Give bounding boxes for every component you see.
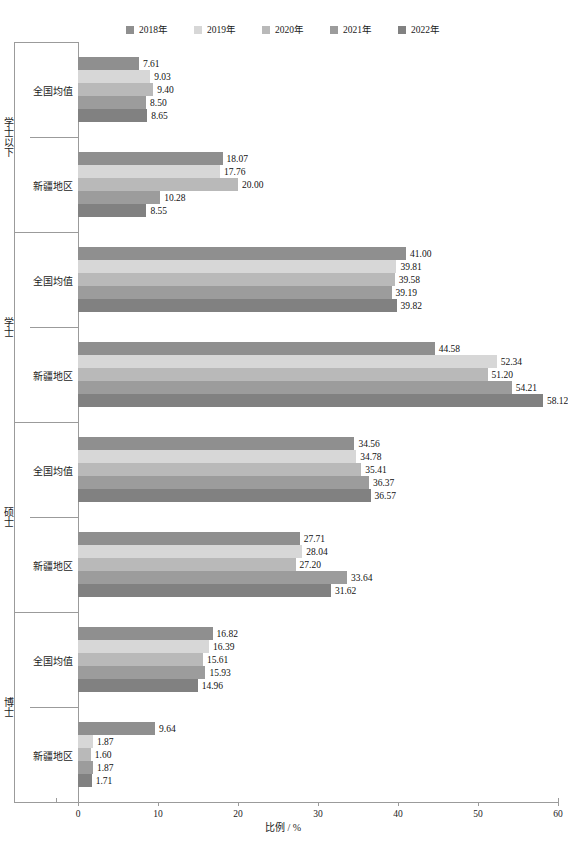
category-label-新疆地区: 新疆地区 bbox=[33, 557, 73, 572]
x-axis-tick bbox=[238, 802, 239, 806]
subgroup-separator bbox=[30, 707, 78, 708]
bar-row: 9.40 bbox=[78, 83, 558, 96]
bar-2022年[interactable] bbox=[78, 774, 92, 787]
bar-2019年[interactable] bbox=[78, 165, 220, 178]
bar-2021年[interactable] bbox=[78, 381, 512, 394]
x-axis-tick bbox=[78, 802, 79, 806]
bar-2019年[interactable] bbox=[78, 355, 497, 368]
bar-value-label: 1.71 bbox=[92, 776, 113, 786]
bar-row: 33.64 bbox=[78, 571, 558, 584]
bar-2020年[interactable] bbox=[78, 178, 238, 191]
legend-item-2019年[interactable]: 2019年 bbox=[194, 25, 236, 35]
bar-2018年[interactable] bbox=[78, 627, 213, 640]
bar-row: 16.39 bbox=[78, 640, 558, 653]
category-label-全国均值: 全国均值 bbox=[33, 462, 73, 477]
bar-row: 28.04 bbox=[78, 545, 558, 558]
bar-value-label: 20.00 bbox=[238, 180, 263, 190]
legend-swatch-icon bbox=[194, 26, 202, 34]
bar-value-label: 28.04 bbox=[302, 547, 327, 557]
bar-value-label: 9.03 bbox=[150, 72, 171, 82]
bar-2021年[interactable] bbox=[78, 286, 392, 299]
bar-2021年[interactable] bbox=[78, 96, 146, 109]
category-label-全国均值: 全国均值 bbox=[33, 652, 73, 667]
bar-2019年[interactable] bbox=[78, 640, 209, 653]
legend-item-2021年[interactable]: 2021年 bbox=[330, 25, 372, 35]
bar-2018年[interactable] bbox=[78, 342, 435, 355]
bar-2018年[interactable] bbox=[78, 152, 223, 165]
bar-2018年[interactable] bbox=[78, 57, 139, 70]
bar-2021年[interactable] bbox=[78, 191, 160, 204]
bar-row: 34.56 bbox=[78, 437, 558, 450]
bar-2021年[interactable] bbox=[78, 666, 205, 679]
legend-label: 2018年 bbox=[139, 25, 168, 35]
bar-value-label: 41.00 bbox=[406, 249, 431, 259]
category-label-新疆地区: 新疆地区 bbox=[33, 177, 73, 192]
bar-value-label: 9.64 bbox=[155, 724, 176, 734]
bar-2020年[interactable] bbox=[78, 558, 296, 571]
category-label-新疆地区: 新疆地区 bbox=[33, 747, 73, 762]
bar-row: 15.61 bbox=[78, 653, 558, 666]
bar-row: 27.71 bbox=[78, 532, 558, 545]
bar-2020年[interactable] bbox=[78, 83, 153, 96]
bar-2022年[interactable] bbox=[78, 584, 331, 597]
bar-row: 7.61 bbox=[78, 57, 558, 70]
bar-2022年[interactable] bbox=[78, 204, 146, 217]
x-axis-tick-label: 40 bbox=[393, 809, 403, 820]
bar-2019年[interactable] bbox=[78, 545, 302, 558]
legend-item-2020年[interactable]: 2020年 bbox=[262, 25, 304, 35]
bar-value-label: 39.81 bbox=[396, 262, 421, 272]
top-margin bbox=[0, 0, 566, 10]
bar-value-label: 14.96 bbox=[198, 681, 223, 691]
x-axis-tick-label: 10 bbox=[153, 809, 163, 820]
bar-value-label: 1.60 bbox=[91, 750, 112, 760]
bar-2019年[interactable] bbox=[78, 70, 150, 83]
bar-value-label: 34.56 bbox=[354, 439, 379, 449]
bar-row: 36.57 bbox=[78, 489, 558, 502]
bar-2022年[interactable] bbox=[78, 299, 397, 312]
bar-2020年[interactable] bbox=[78, 463, 361, 476]
bar-2021年[interactable] bbox=[78, 761, 93, 774]
bar-2019年[interactable] bbox=[78, 260, 396, 273]
bar-2022年[interactable] bbox=[78, 489, 371, 502]
bar-row: 1.87 bbox=[78, 735, 558, 748]
bar-2019年[interactable] bbox=[78, 735, 93, 748]
bar-value-label: 9.40 bbox=[153, 85, 174, 95]
bar-row: 9.64 bbox=[78, 722, 558, 735]
bar-2022年[interactable] bbox=[78, 679, 198, 692]
bar-2020年[interactable] bbox=[78, 368, 488, 381]
bar-row: 39.58 bbox=[78, 273, 558, 286]
bar-2022年[interactable] bbox=[78, 394, 543, 407]
bar-2020年[interactable] bbox=[78, 273, 395, 286]
subgroup-separator bbox=[30, 327, 78, 328]
bar-row: 18.07 bbox=[78, 152, 558, 165]
bar-value-label: 39.19 bbox=[392, 288, 417, 298]
legend-swatch-icon bbox=[398, 26, 406, 34]
bar-2018年[interactable] bbox=[78, 722, 155, 735]
bar-2022年[interactable] bbox=[78, 109, 147, 122]
bar-2021年[interactable] bbox=[78, 476, 369, 489]
bar-value-label: 16.82 bbox=[213, 629, 238, 639]
bar-2018年[interactable] bbox=[78, 532, 300, 545]
bar-row: 16.82 bbox=[78, 627, 558, 640]
plot-area: 7.619.039.408.508.6518.0717.7620.0010.28… bbox=[78, 42, 558, 802]
bar-2019年[interactable] bbox=[78, 450, 356, 463]
bar-value-label: 36.57 bbox=[371, 491, 396, 501]
bar-2020年[interactable] bbox=[78, 748, 91, 761]
bar-row: 1.60 bbox=[78, 748, 558, 761]
bar-row: 15.93 bbox=[78, 666, 558, 679]
bar-2018年[interactable] bbox=[78, 247, 406, 260]
bar-value-label: 17.76 bbox=[220, 167, 245, 177]
legend-item-2022年[interactable]: 2022年 bbox=[398, 25, 440, 35]
x-axis-tick-label: 30 bbox=[313, 809, 323, 820]
bar-value-label: 1.87 bbox=[93, 737, 114, 747]
bar-value-label: 10.28 bbox=[160, 193, 185, 203]
bar-value-label: 35.41 bbox=[361, 465, 386, 475]
bar-2020年[interactable] bbox=[78, 653, 203, 666]
bar-value-label: 39.82 bbox=[397, 301, 422, 311]
bar-value-label: 27.71 bbox=[300, 534, 325, 544]
bar-2021年[interactable] bbox=[78, 571, 347, 584]
bar-row: 27.20 bbox=[78, 558, 558, 571]
legend-item-2018年[interactable]: 2018年 bbox=[126, 25, 168, 35]
bar-2018年[interactable] bbox=[78, 437, 354, 450]
bar-value-label: 58.12 bbox=[543, 396, 568, 406]
